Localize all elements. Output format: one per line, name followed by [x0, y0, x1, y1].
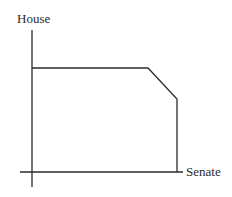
feasible-set-boundary [32, 68, 177, 172]
y-axis-label: House [17, 12, 50, 25]
x-axis-label: Senate [186, 165, 221, 178]
